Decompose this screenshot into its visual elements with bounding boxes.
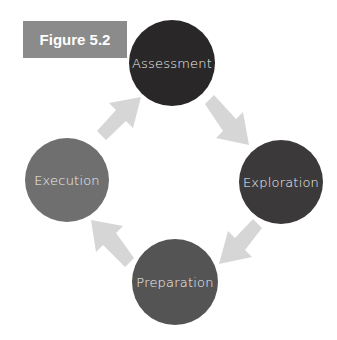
node-label: Execution <box>34 173 100 188</box>
node-assessment: Assessment <box>129 20 215 106</box>
node-exploration: Exploration <box>239 140 323 224</box>
arrow-preparation-to-execution-icon <box>91 220 134 267</box>
node-label: Assessment <box>132 56 212 71</box>
node-preparation: Preparation <box>132 239 218 325</box>
arrow-assessment-to-exploration-icon <box>205 95 249 145</box>
node-label: Exploration <box>243 175 319 190</box>
arrow-execution-to-assessment-icon <box>97 97 141 140</box>
node-label: Preparation <box>136 275 213 290</box>
node-execution: Execution <box>25 138 109 222</box>
arrow-exploration-to-preparation-icon <box>219 219 262 264</box>
